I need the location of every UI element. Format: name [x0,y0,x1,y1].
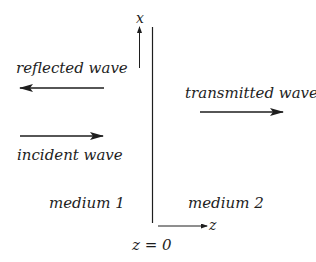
medium-2-label: medium 2 [188,196,264,211]
diagram-canvas [0,0,316,262]
z-axis-label: z [209,218,216,232]
boundary-label: z = 0 [132,238,172,253]
x-axis-label: x [136,11,144,25]
reflected-wave-label: reflected wave [16,61,128,76]
medium-1-label: medium 1 [49,196,125,211]
transmitted-wave-label: transmitted wave [185,86,316,101]
incident-wave-label: incident wave [17,148,123,163]
